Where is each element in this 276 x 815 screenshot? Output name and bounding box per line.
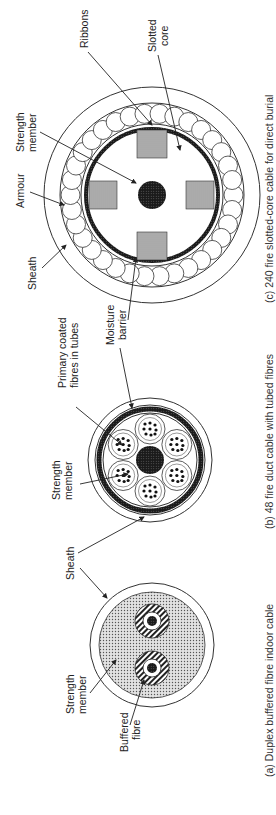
buffered-fibre-top — [135, 604, 169, 638]
label-strength-member-line1: Strength — [14, 112, 26, 152]
ribbon-stack-left — [89, 181, 117, 209]
label-sheath: Sheath — [64, 547, 76, 580]
label-ribbons: Ribbons — [78, 9, 90, 48]
caption-a: (a) Duplex buffered fibre indoor cable — [263, 604, 275, 777]
label-slotted-core-line2: core — [158, 25, 170, 46]
panel-c-slotted-core-cable: Ribbons Slotted core Strength member Arm… — [14, 9, 260, 320]
caption-b: (b) 48 fire duct cable with tubed fibres — [263, 354, 275, 529]
label-primary-coated-line2: fibres in tubes — [68, 323, 80, 388]
panel-b-tubed-fibre-cable: Primary coated fibres in tubes Strength … — [50, 305, 212, 522]
label-buffered-fibre-line1: Buffered — [118, 712, 130, 752]
ribbon-stack-bottom — [137, 232, 167, 260]
label-strength-member-line1: Strength — [64, 674, 76, 714]
label-armour: Armour — [14, 173, 26, 208]
label-moisture-barrier-line1: Moisture — [104, 305, 116, 345]
strength-member-core — [138, 181, 166, 209]
label-strength-member-line2: member — [76, 675, 88, 714]
caption-c: (c) 240 fire slotted-core cable for dire… — [263, 95, 275, 303]
strength-member-core — [136, 446, 164, 474]
label-buffered-fibre-line2: fibre — [130, 719, 142, 740]
panel-a-duplex-cable: Sheath Strength member Buffered fibre — [64, 517, 214, 752]
label-slotted-core-line1: Slotted — [146, 19, 158, 52]
label-strength-member-line1: Strength — [50, 460, 62, 500]
ribbon-stack-top — [137, 130, 167, 158]
label-strength-member-line2: member — [62, 461, 74, 500]
label-strength-member-line2: member — [26, 113, 38, 152]
label-sheath: Sheath — [26, 257, 38, 290]
label-primary-coated-line1: Primary coated — [56, 317, 68, 388]
ribbon-stack-right — [186, 181, 214, 209]
label-moisture-barrier-line2: barrier — [116, 309, 128, 340]
buffered-fibre-bottom — [135, 651, 169, 685]
cable-cross-sections-diagram: Ribbons Slotted core Strength member Arm… — [0, 0, 276, 815]
